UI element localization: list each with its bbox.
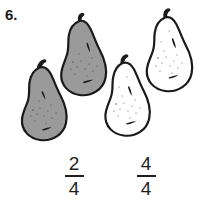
fraction-right-bar: [137, 175, 156, 177]
exercise-number: 6.: [5, 6, 18, 24]
pear-body-path: [147, 17, 192, 91]
unshaded-pear-4[interactable]: [142, 7, 200, 97]
fraction-right-numerator: 4: [126, 154, 166, 173]
worksheet-exercise: 6.: [0, 0, 206, 204]
fraction-right-denominator: 4: [126, 179, 166, 198]
fraction-left-bar: [65, 175, 84, 177]
pear-body-path: [61, 21, 106, 96]
fraction-right[interactable]: 4 4: [126, 154, 166, 198]
fraction-left[interactable]: 2 4: [54, 154, 94, 198]
fraction-left-numerator: 2: [54, 154, 94, 173]
fraction-left-denominator: 4: [54, 179, 94, 198]
